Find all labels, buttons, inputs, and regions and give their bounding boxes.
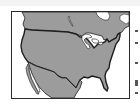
cropped-side-text — [134, 28, 140, 98]
side-mark — [135, 30, 138, 32]
side-mark — [135, 62, 138, 64]
side-mark — [135, 92, 138, 94]
side-mark — [135, 80, 138, 86]
side-mark — [135, 42, 138, 44]
map-frame — [11, 11, 130, 99]
north-america-map — [12, 12, 129, 98]
top-background-strip — [0, 0, 140, 6]
